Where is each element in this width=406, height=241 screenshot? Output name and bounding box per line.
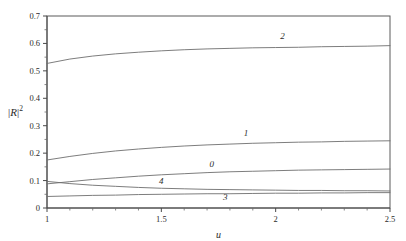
y-tick-label: 0 (36, 203, 40, 213)
y-axis-title-exponent: 2 (19, 104, 23, 113)
y-axis-title: |R|2 (8, 104, 23, 118)
curve-3 (47, 193, 390, 197)
curve-label-1: 1 (244, 128, 249, 138)
curve-label-2: 2 (280, 31, 285, 41)
x-tick-label: 1.5 (156, 214, 167, 224)
plot-canvas: 00.10.20.30.40.50.60.711.522.521043u|R|2 (0, 0, 406, 241)
curve-label-0: 0 (209, 159, 214, 169)
y-tick-label: 0.5 (29, 66, 40, 76)
y-tick-label: 0.1 (29, 176, 40, 186)
y-tick-label: 0.2 (29, 148, 40, 158)
curve-label-3: 3 (222, 192, 228, 202)
y-tick-label: 0.6 (29, 38, 40, 48)
curve-0 (47, 169, 390, 184)
x-axis-title: u (216, 229, 221, 240)
curve-label-4: 4 (159, 176, 164, 186)
y-tick-label: 0.7 (29, 11, 40, 21)
curve-2 (47, 46, 390, 64)
chart-figure: 00.10.20.30.40.50.60.711.522.521043u|R|2 (0, 0, 406, 241)
x-tick-label: 2 (274, 214, 278, 224)
curve-4 (47, 181, 390, 191)
curve-1 (47, 141, 390, 160)
x-tick-label: 1 (45, 214, 49, 224)
x-tick-label: 2.5 (385, 214, 396, 224)
y-tick-label: 0.4 (29, 93, 40, 103)
y-tick-label: 0.3 (29, 121, 40, 131)
